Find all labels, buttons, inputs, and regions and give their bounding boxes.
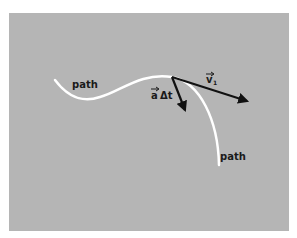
acceleration-symbol: a [151, 90, 158, 101]
velocity-subscript: 1 [213, 79, 217, 86]
delta-t-symbol: Δt [160, 90, 173, 101]
acceleration-label: a Δt [151, 87, 173, 101]
velocity-label: v 1 [206, 72, 217, 86]
path-label-right: path [220, 151, 246, 162]
motion-diagram: path path v 1 a Δt [0, 0, 297, 238]
path-label-left: path [72, 79, 98, 90]
velocity-symbol: v [206, 74, 213, 85]
